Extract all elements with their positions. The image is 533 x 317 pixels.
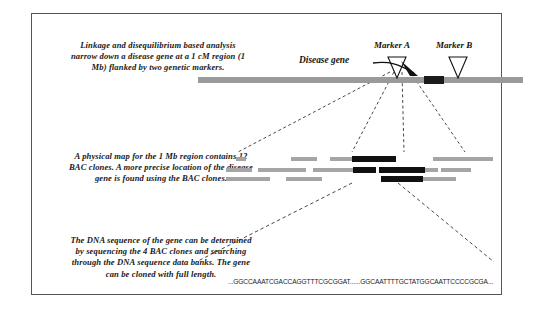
disease-gene-label: Disease gene bbox=[299, 55, 349, 65]
connector-top-center bbox=[402, 72, 404, 152]
bac-clone-light bbox=[286, 177, 322, 181]
bac-clone-dark bbox=[352, 156, 396, 162]
marker-b-label: Marker B bbox=[436, 40, 472, 50]
chromosome-bar bbox=[198, 77, 523, 83]
bac-clone-dark bbox=[379, 167, 425, 173]
connector-top-mid-left bbox=[352, 72, 394, 152]
connector-bottom-right bbox=[398, 183, 494, 262]
bac-clone-light bbox=[291, 157, 317, 161]
bac-clone-light bbox=[423, 177, 456, 181]
marker-b-triangle-icon bbox=[448, 56, 468, 79]
bac-clone-light bbox=[313, 168, 353, 172]
marker-a-label: Marker A bbox=[374, 40, 410, 50]
bac-clone-light bbox=[330, 157, 352, 161]
disease-gene-arrow-icon bbox=[372, 54, 434, 80]
bac-clone-light bbox=[226, 168, 252, 172]
bac-clone-light bbox=[425, 168, 438, 172]
bac-clone-light bbox=[441, 168, 471, 172]
bac-clone-light bbox=[236, 157, 246, 161]
bac-clone-light bbox=[433, 157, 493, 161]
caption-linkage-analysis: Linkage and disequilibrium based analysi… bbox=[70, 40, 246, 74]
figure-page: Linkage and disequilibrium based analysi… bbox=[0, 0, 533, 317]
bac-clone-light bbox=[258, 168, 306, 172]
caption-dna-sequencing: The DNA sequence of the gene can be dete… bbox=[66, 235, 256, 280]
bac-clone-dark bbox=[353, 167, 376, 173]
connector-top-left bbox=[238, 72, 390, 152]
figure-frame: Linkage and disequilibrium based analysi… bbox=[31, 13, 502, 295]
bac-clone-light bbox=[226, 177, 270, 181]
bac-clone-dark bbox=[381, 176, 423, 182]
dna-sequence-text: ...GGCCAAATCGACCAGGTTTCGCGGAT......GGCAA… bbox=[228, 278, 528, 285]
connector-top-right bbox=[410, 72, 465, 152]
